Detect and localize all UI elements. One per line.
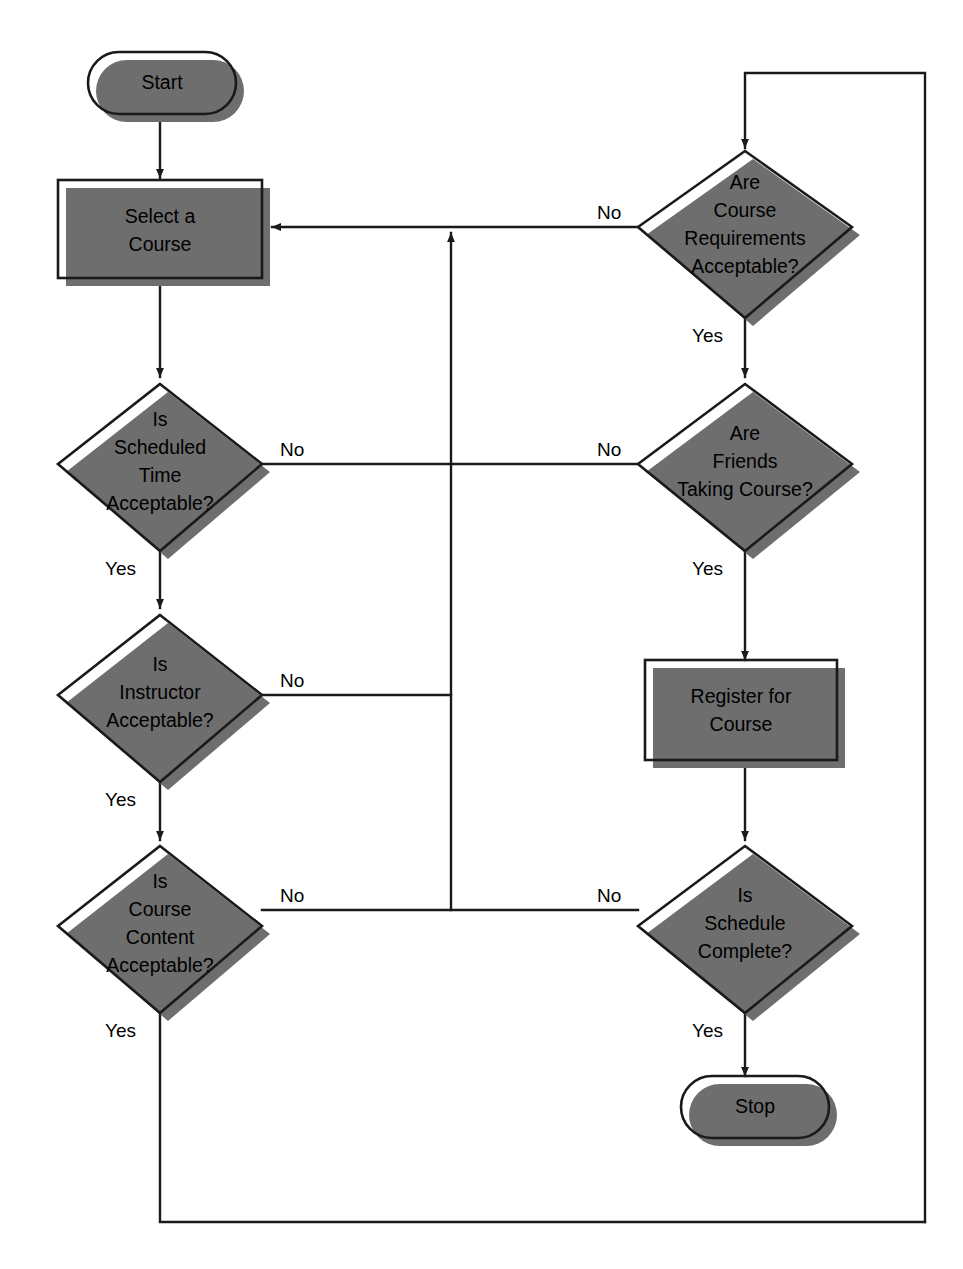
scheduled-time-label-line3: Time: [139, 464, 182, 486]
course-content-label-line4: Acceptable?: [106, 954, 213, 976]
register-label-line2: Course: [710, 713, 773, 735]
flowchart-svg: Start Select a Course Is Scheduled Time …: [0, 0, 963, 1269]
instructor-shadow: [66, 623, 270, 790]
edge-label-scheduled-time-no: No: [280, 439, 304, 460]
edge-label-course-requirements-yes: Yes: [692, 325, 723, 346]
node-instructor[interactable]: Is Instructor Acceptable?: [58, 615, 270, 790]
course-requirements-label-line1: Are: [730, 171, 760, 193]
schedule-complete-label-line2: Schedule: [704, 912, 785, 934]
select-course-label-line1: Select a: [125, 205, 196, 227]
friends-taking-shadow: [646, 392, 860, 559]
course-requirements-label-line3: Requirements: [684, 227, 806, 249]
node-stop[interactable]: Stop: [681, 1076, 837, 1146]
stop-label: Stop: [735, 1095, 775, 1117]
instructor-label-line1: Is: [152, 653, 167, 675]
node-course-requirements[interactable]: Are Course Requirements Acceptable?: [638, 151, 860, 326]
course-requirements-label-line2: Course: [714, 199, 777, 221]
edge-label-course-content-no: No: [280, 885, 304, 906]
node-start[interactable]: Start: [88, 52, 244, 122]
edge-label-instructor-yes: Yes: [105, 789, 136, 810]
edge-label-schedule-complete-no: No: [597, 885, 621, 906]
schedule-complete-label-line3: Complete?: [698, 940, 792, 962]
select-course-label-line2: Course: [129, 233, 192, 255]
course-requirements-label-line4: Acceptable?: [691, 255, 798, 277]
friends-taking-label-line3: Taking Course?: [677, 478, 813, 500]
node-register[interactable]: Register for Course: [645, 660, 845, 768]
node-scheduled-time[interactable]: Is Scheduled Time Acceptable?: [58, 384, 270, 559]
edge-label-course-content-yes: Yes: [105, 1020, 136, 1041]
node-course-content[interactable]: Is Course Content Acceptable?: [58, 846, 270, 1021]
instructor-label-line3: Acceptable?: [106, 709, 213, 731]
scheduled-time-label-line2: Scheduled: [114, 436, 206, 458]
course-content-label-line1: Is: [152, 870, 167, 892]
node-select-course[interactable]: Select a Course: [58, 180, 270, 286]
start-label: Start: [141, 71, 183, 93]
node-schedule-complete[interactable]: Is Schedule Complete?: [638, 846, 860, 1021]
node-friends-taking[interactable]: Are Friends Taking Course?: [638, 384, 860, 559]
scheduled-time-label-line4: Acceptable?: [106, 492, 213, 514]
schedule-complete-label-line1: Is: [737, 884, 752, 906]
edge-label-schedule-complete-yes: Yes: [692, 1020, 723, 1041]
friends-taking-label-line1: Are: [730, 422, 760, 444]
edge-label-friends-taking-no: No: [597, 439, 621, 460]
friends-taking-label-line2: Friends: [712, 450, 777, 472]
course-content-label-line3: Content: [126, 926, 195, 948]
course-content-label-line2: Course: [129, 898, 192, 920]
schedule-complete-shadow: [646, 854, 860, 1021]
flowchart-canvas: Start Select a Course Is Scheduled Time …: [0, 0, 963, 1269]
register-label-line1: Register for: [691, 685, 792, 707]
edge-label-friends-taking-yes: Yes: [692, 558, 723, 579]
edge-label-scheduled-time-yes: Yes: [105, 558, 136, 579]
scheduled-time-label-line1: Is: [152, 408, 167, 430]
edge-label-instructor-no: No: [280, 670, 304, 691]
edge-label-course-requirements-no: No: [597, 202, 621, 223]
instructor-label-line2: Instructor: [119, 681, 201, 703]
